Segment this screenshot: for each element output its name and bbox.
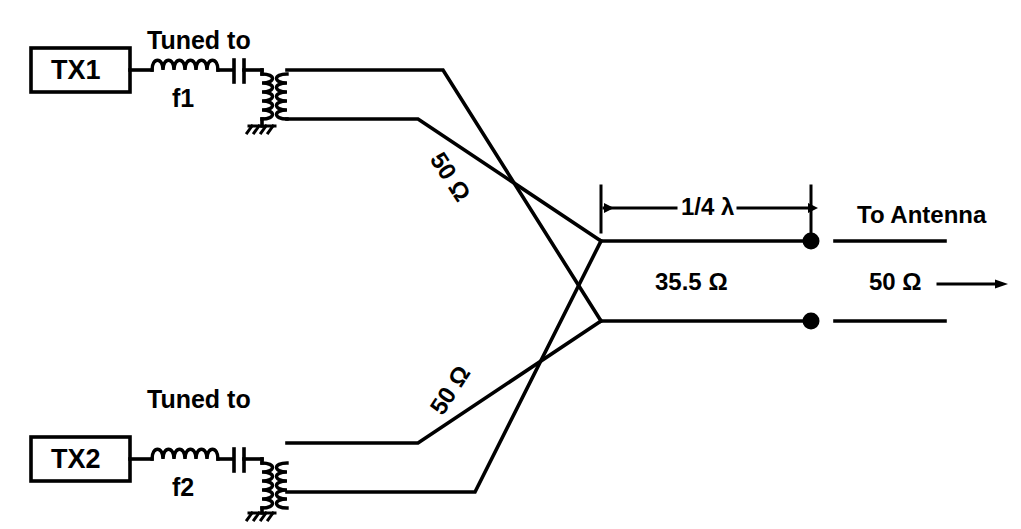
matching-impedance-label: 35.5 Ω bbox=[655, 270, 728, 294]
tx1-transformer-primary-icon bbox=[262, 74, 273, 119]
tx1-tuned-frequency: f1 bbox=[172, 86, 194, 111]
tx2-ground-icon bbox=[247, 513, 275, 520]
tx1-inductor-icon bbox=[152, 60, 218, 70]
tx1-line-upper bbox=[287, 70, 601, 321]
terminal-dot-lower bbox=[803, 313, 820, 330]
diagram-canvas: TX1 Tuned to f1 TX2 Tuned to f2 50 Ω 50 … bbox=[0, 0, 1021, 529]
tx2-line-lower bbox=[287, 241, 601, 492]
tx2-inductor-icon bbox=[152, 449, 218, 459]
tx2-tuned-caption: Tuned to bbox=[147, 387, 251, 412]
tx1-transformer-secondary-icon bbox=[277, 74, 288, 119]
tx1-label: TX1 bbox=[51, 57, 101, 84]
tx1-tuned-caption: Tuned to bbox=[147, 28, 251, 53]
terminal-dot-upper bbox=[803, 233, 820, 250]
tx2-transformer-primary-icon bbox=[262, 463, 273, 508]
tx2-transformer-secondary-icon bbox=[277, 463, 288, 508]
tx1-ground-icon bbox=[247, 126, 275, 133]
quarter-wave-length-label: 1/4 λ bbox=[681, 195, 734, 219]
circuit-schematic bbox=[0, 0, 1021, 529]
output-impedance-label: 50 Ω bbox=[869, 270, 922, 294]
tx2-tuned-frequency: f2 bbox=[172, 475, 194, 500]
antenna-destination-label: To Antenna bbox=[857, 203, 986, 227]
tx2-label: TX2 bbox=[51, 446, 101, 473]
